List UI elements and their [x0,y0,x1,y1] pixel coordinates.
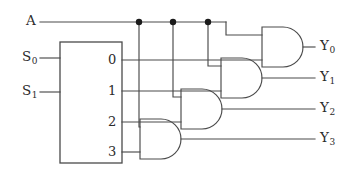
output-label-y1-text: Y [320,68,329,84]
output-label-y3-text: Y [320,129,329,145]
wire-a-to-gate-y0 [226,22,262,35]
input-label-s1-sub: 1 [32,90,38,100]
input-label-a: A [26,14,36,28]
input-label-s1-text: S [22,82,31,98]
circuit-svg [0,0,350,175]
decoder-port-0: 0 [108,53,116,66]
output-label-y3: Y3 [320,131,335,145]
wire-a-to-gate-y3 [139,22,140,127]
input-label-s1: S1 [22,84,37,98]
output-label-y1-sub: 1 [329,76,335,86]
output-label-y0-sub: 0 [329,45,335,55]
input-label-s0: S0 [22,50,37,64]
input-label-s0-text: S [22,48,31,64]
output-label-y2-sub: 2 [329,107,335,117]
input-label-a-text: A [26,12,36,28]
output-label-y2: Y2 [320,101,335,115]
output-label-y0-text: Y [320,37,329,53]
decoder-port-2: 2 [108,115,116,128]
decoder-port-1: 1 [108,84,116,97]
logic-diagram: A S0 S1 0 1 2 3 Y0 Y1 Y2 Y3 [0,0,350,175]
output-label-y2-text: Y [320,99,329,115]
gate-y3 [140,119,181,159]
gate-y1 [221,58,262,98]
junction-dot-a-y1 [205,19,211,25]
gate-y0 [262,27,303,67]
output-label-y1: Y1 [320,70,335,84]
gate-y2 [181,89,222,129]
wire-a-to-gate-y1 [208,22,221,66]
output-label-y3-sub: 3 [329,137,335,147]
input-label-s0-sub: 0 [32,56,38,66]
output-label-y0: Y0 [320,39,335,53]
junction-dot-a-y3 [136,19,142,25]
decoder-port-3: 3 [108,145,116,158]
junction-dot-a-y2 [170,19,176,25]
